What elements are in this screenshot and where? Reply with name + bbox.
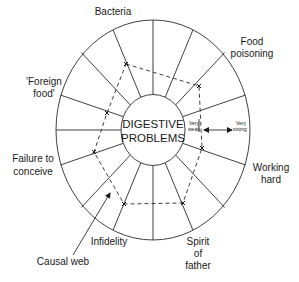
label-spirit-of-father-line3: father <box>185 260 211 271</box>
center-label-line1: DIGESTIVE <box>122 118 184 130</box>
label-working-hard-line1: Working <box>253 162 290 173</box>
label-bacteria: Bacteria <box>95 6 132 17</box>
label-spirit-of-father-line2: of <box>194 248 203 259</box>
label-working-hard-line2: hard <box>261 174 281 185</box>
marker-foreign-food <box>105 111 109 115</box>
label-infidelity: Infidelity <box>91 236 128 247</box>
scale-strong-line2: strong <box>233 126 247 132</box>
causal-web-diagram: DIGESTIVE PROBLEMS Very weak Very strong… <box>0 0 299 282</box>
scale-weak-line2: weak <box>188 126 200 132</box>
label-failure-to-conceive-line1: Failure to <box>12 153 54 164</box>
label-foreign-food-line2: food' <box>33 88 54 99</box>
label-spirit-of-father-line1: Spirit <box>187 236 210 247</box>
center-hub <box>121 95 185 166</box>
label-failure-to-conceive-line2: conceive <box>13 166 53 177</box>
label-foreign-food-line1: 'Foreign <box>26 76 62 87</box>
label-food-poisoning-line2: poisoning <box>231 48 274 59</box>
strength-scale: Very weak Very strong <box>188 119 247 132</box>
label-causal-web: Causal web <box>37 256 90 267</box>
label-food-poisoning-line1: Food <box>241 36 264 47</box>
center-label-line2: PROBLEMS <box>121 132 185 144</box>
